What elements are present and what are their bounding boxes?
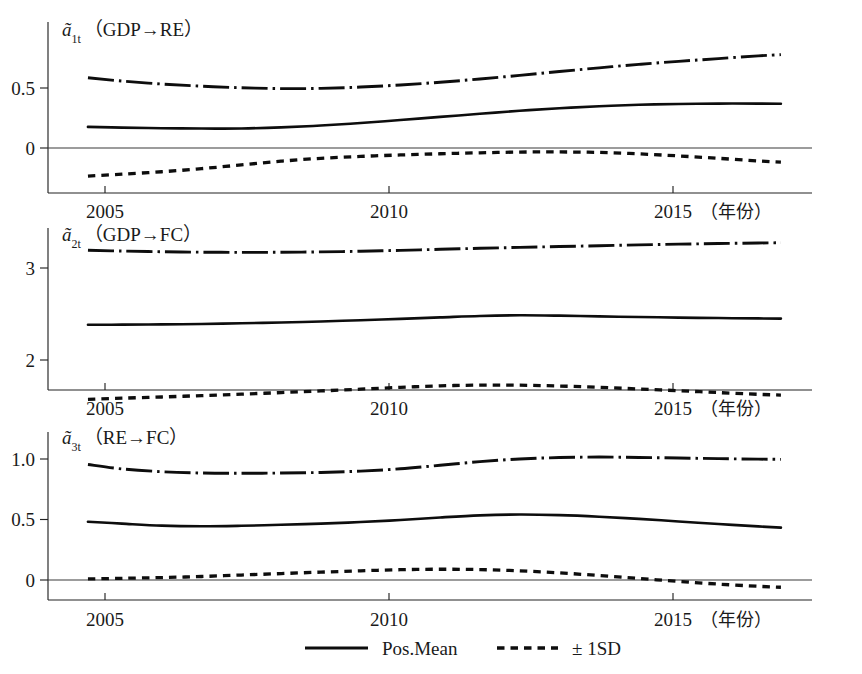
panel-1-series--1sd [88,152,781,176]
panel-2-ytick-label-0: 2 [26,350,36,371]
panel-3-title: ã3t（RE→FC） [62,427,188,454]
panel-1-ytick-label-1: 0.5 [11,78,35,99]
chart-panel-3: 00.51.0200520102015（年份）ã3t（RE→FC） [11,427,812,630]
panel-2-xtick-label-1: 2010 [370,398,408,419]
panel-1-series-pos-mean [88,104,781,129]
panel-3-series-pos-mean [88,515,781,528]
panel-1-ytick-label-0: 0 [26,138,36,159]
panel-1-title: ã1t（GDP→RE） [62,19,203,46]
panel-1-xtick-label-2: 2015 [654,201,692,222]
panel-3-series--1sd [88,569,781,587]
figure-root: 00.5200520102015（年份）ã1t（GDP→RE）23200520… [0,0,862,674]
panel-3-ytick-label-1: 0.5 [11,509,35,530]
chart-panel-2: 23200520102015（年份）ã2t（GDP→FC） [26,224,813,419]
panel-1-xaxis-caption: （年份） [700,201,772,222]
panel-3-ytick-label-2: 1.0 [11,449,35,470]
panel-3-xaxis-caption: （年份） [700,609,772,630]
panel-3-ytick-label-0: 0 [26,570,36,591]
panel-2-title: ã2t（GDP→FC） [62,224,202,251]
panel-3-series--1sd [88,457,781,473]
panel-3-xtick-label-1: 2010 [370,609,408,630]
panel-1-xtick-label-1: 2010 [370,201,408,222]
panel-1-xtick-label-0: 2005 [86,201,124,222]
panel-2-ytick-label-1: 3 [26,258,36,279]
panel-2-xtick-label-2: 2015 [654,398,692,419]
panel-3-xtick-label-0: 2005 [86,609,124,630]
legend-label-mean: Pos.Mean [382,638,458,659]
multi-panel-line-chart: 00.5200520102015（年份）ã1t（GDP→RE）23200520… [0,0,862,674]
panel-3-xtick-label-2: 2015 [654,609,692,630]
chart-panel-1: 00.5200520102015（年份）ã1t（GDP→RE） [11,19,812,222]
panel-1-series--1sd [88,55,781,89]
legend-label-sd: ± 1SD [572,638,621,659]
panel-2-xtick-label-0: 2005 [86,398,124,419]
chart-legend: Pos.Mean± 1SD [305,638,621,659]
panel-2-xaxis-caption: （年份） [700,398,772,419]
panel-2-series-pos-mean [88,315,781,324]
